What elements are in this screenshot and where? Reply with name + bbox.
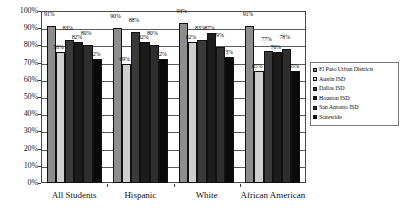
bar-value-label: 82%	[186, 34, 196, 40]
legend-item: El Paso Urban Districts	[313, 65, 396, 74]
bar	[140, 42, 149, 183]
bar	[264, 51, 273, 183]
bar-value-label: 83%	[62, 25, 72, 31]
y-axis-tick-mark	[38, 166, 41, 167]
bar-value-label: 77%	[261, 36, 271, 42]
y-axis-tick-label: 0%	[2, 179, 38, 187]
x-axis-tick-mark	[107, 184, 108, 187]
x-axis-category-label: White	[174, 190, 240, 201]
bar	[291, 71, 300, 183]
bar-value-label: 72%	[156, 51, 166, 57]
y-axis-tick-mark	[38, 11, 41, 12]
y-axis-tick-label: 10%	[2, 162, 38, 170]
legend-swatch	[313, 68, 317, 72]
y-axis-tick-label: 100%	[2, 7, 38, 15]
y-axis-tick-mark	[38, 80, 41, 81]
bar-group: 91%76%83%82%80%72%	[41, 11, 107, 183]
bar-value-label: 72%	[90, 51, 100, 57]
bar	[65, 40, 74, 183]
y-axis-tick-mark	[38, 28, 41, 29]
bar	[188, 42, 197, 183]
y-axis-tick-mark	[38, 131, 41, 132]
legend-swatch	[313, 96, 317, 100]
bar	[74, 42, 83, 183]
bar-value-label: 80%	[147, 30, 157, 36]
bar	[56, 52, 65, 183]
bar	[207, 33, 216, 183]
bar-chart: 100%90%80%70%60%50%40%30%20%10%0% 91%76%…	[0, 0, 402, 221]
bar-value-label: 79%	[213, 32, 223, 38]
bar-group: 93%82%83%87%79%73%	[174, 11, 240, 183]
y-axis-tick-label: 70%	[2, 59, 38, 67]
x-axis: All StudentsHispanicWhiteAfrican America…	[41, 184, 306, 221]
bar	[150, 45, 159, 183]
bar-value-label: 65%	[289, 63, 299, 69]
bar	[93, 59, 102, 183]
legend-label: Statewide	[319, 114, 342, 121]
y-axis-tick-label: 40%	[2, 110, 38, 118]
legend-swatch	[313, 77, 317, 81]
bar	[245, 26, 254, 183]
bar	[113, 28, 122, 183]
y-axis-tick-mark	[38, 149, 41, 150]
bar-value-label: 87%	[204, 25, 214, 31]
x-axis-tick-mark	[240, 184, 241, 187]
bar-value-label: 76%	[270, 44, 280, 50]
legend-item: Dallas ISD	[313, 84, 396, 93]
bar	[254, 71, 263, 183]
legend-item: San Antonio ISD	[313, 103, 396, 112]
legend-item: Statewide	[313, 113, 396, 122]
y-axis-tick-label: 50%	[2, 93, 38, 101]
x-axis-category-label: Hispanic	[107, 190, 173, 201]
legend: El Paso Urban DistrictsAustin ISDDallas …	[310, 62, 399, 126]
bar-value-label: 91%	[44, 11, 54, 17]
legend-item: Austin ISD	[313, 75, 396, 84]
x-axis-category-label: African American	[240, 190, 306, 201]
y-axis-tick-mark	[38, 45, 41, 46]
bar	[83, 45, 92, 183]
y-axis-tick-mark	[38, 114, 41, 115]
legend-label: Austin ISD	[319, 76, 345, 83]
y-axis-tick-mark	[38, 97, 41, 98]
x-axis-category-label: All Students	[41, 190, 107, 201]
legend-label: Houston ISD	[319, 95, 349, 102]
x-axis-tick-mark	[174, 184, 175, 187]
legend-swatch	[313, 87, 317, 91]
y-axis-tick-label: 80%	[2, 41, 38, 49]
bar-value-label: 73%	[223, 49, 233, 55]
y-axis-tick-label: 20%	[2, 145, 38, 153]
bar	[273, 52, 282, 183]
bar-value-label: 78%	[280, 34, 290, 40]
legend-swatch	[313, 115, 317, 119]
bar-group: 90%69%88%82%80%72%	[107, 11, 173, 183]
legend-label: San Antonio ISD	[319, 104, 359, 111]
y-axis-tick-label: 60%	[2, 76, 38, 84]
bar-value-label: 80%	[81, 30, 91, 36]
bar-value-label: 69%	[119, 56, 129, 62]
legend-label: El Paso Urban Districts	[319, 66, 373, 73]
bar-value-label: 88%	[129, 17, 139, 23]
bar-value-label: 90%	[110, 13, 120, 19]
y-axis: 100%90%80%70%60%50%40%30%20%10%0%	[0, 11, 38, 183]
bar	[131, 32, 140, 183]
y-axis-tick-mark	[38, 183, 41, 184]
bar-value-label: 91%	[243, 11, 253, 17]
bar-value-label: 76%	[53, 44, 63, 50]
bar	[159, 59, 168, 183]
y-axis-tick-label: 90%	[2, 24, 38, 32]
bar	[225, 57, 234, 183]
legend-swatch	[313, 106, 317, 110]
y-axis-tick-label: 30%	[2, 127, 38, 135]
bar	[122, 64, 131, 183]
legend-label: Dallas ISD	[319, 85, 345, 92]
bar	[197, 40, 206, 183]
y-axis-tick-mark	[38, 63, 41, 64]
bars-layer: 91%76%83%82%80%72%90%69%88%82%80%72%93%8…	[41, 11, 306, 183]
bar-group: 91%65%77%76%78%65%	[240, 11, 306, 183]
bar	[179, 23, 188, 183]
legend-item: Houston ISD	[313, 94, 396, 103]
bar-value-label: 93%	[177, 8, 187, 14]
bar-value-label: 65%	[252, 63, 262, 69]
bar	[216, 47, 225, 183]
